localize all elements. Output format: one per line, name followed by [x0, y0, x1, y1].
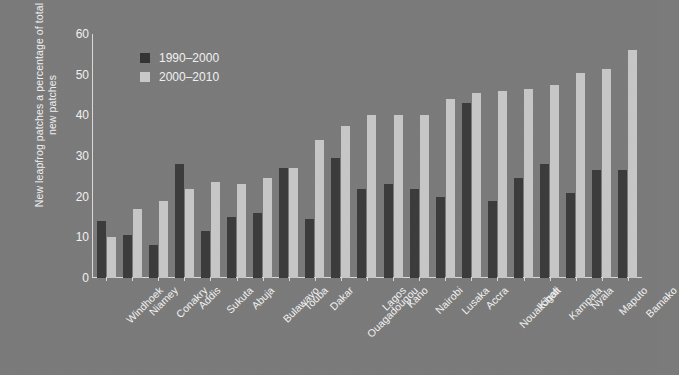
x-tickmark [445, 277, 446, 281]
bar-niamey-series1[interactable] [133, 209, 142, 278]
bar-kano-series0[interactable] [384, 184, 393, 278]
bar-kigali-series0[interactable] [514, 178, 523, 278]
legend-swatch-1 [140, 72, 150, 82]
x-tickmark [341, 277, 342, 281]
bar-bulawayo-series0[interactable] [253, 213, 262, 278]
bar-windhoek-series1[interactable] [107, 237, 116, 278]
y-tick-50: 50 [55, 69, 89, 81]
bar-group[interactable] [589, 34, 615, 278]
bar-addis-series1[interactable] [185, 189, 194, 278]
bar-group[interactable] [615, 34, 641, 278]
y-tick-20: 20 [55, 191, 89, 203]
bar-group[interactable] [93, 34, 119, 278]
bar-conakry-series0[interactable] [149, 245, 158, 278]
x-tick-label-abuja: Abuja [248, 284, 275, 311]
bar-group[interactable] [328, 34, 354, 278]
bar-nairobi-series1[interactable] [420, 115, 429, 278]
bar-group[interactable] [302, 34, 328, 278]
y-tick-40: 40 [55, 109, 89, 121]
bar-group[interactable] [223, 34, 249, 278]
bar-group[interactable] [354, 34, 380, 278]
bar-abuja-series0[interactable] [227, 217, 236, 278]
x-tickmark [263, 277, 264, 281]
bar-kampala-series1[interactable] [550, 85, 559, 278]
x-tickmark [184, 277, 185, 281]
bar-group[interactable] [563, 34, 589, 278]
x-tickmark [576, 277, 577, 281]
bar-kigali-series1[interactable] [524, 89, 533, 278]
legend-label-1: 2000–2010 [159, 71, 219, 83]
bar-bulawayo-series1[interactable] [263, 178, 272, 278]
x-tickmark [524, 277, 525, 281]
bar-nyala-series1[interactable] [576, 73, 585, 278]
bar-accra-series1[interactable] [472, 93, 481, 278]
bar-lusaka-series1[interactable] [446, 99, 455, 278]
bar-bamako-series0[interactable] [618, 170, 627, 278]
bar-ouagadougou-series1[interactable] [341, 126, 350, 279]
bar-nyala-series0[interactable] [566, 193, 575, 278]
legend-swatch-0 [140, 53, 150, 63]
bar-touba-series1[interactable] [289, 168, 298, 278]
x-tickmark [210, 277, 211, 281]
bar-group[interactable] [406, 34, 432, 278]
bar-dakar-series0[interactable] [305, 219, 314, 278]
bar-group[interactable] [458, 34, 484, 278]
bar-addis-series0[interactable] [175, 164, 184, 278]
x-tickmark [367, 277, 368, 281]
y-axis-tick-labels: 6050403020100 [53, 0, 89, 375]
bar-lusaka-series0[interactable] [436, 197, 445, 278]
y-tick-0: 0 [55, 272, 89, 284]
x-tickmark [315, 277, 316, 281]
legend-label-0: 1990–2000 [159, 52, 219, 64]
bar-group[interactable] [537, 34, 563, 278]
x-tickmark [237, 277, 238, 281]
x-tick-label-bamako: Bamako [643, 284, 679, 320]
bar-conakry-series1[interactable] [159, 201, 168, 278]
x-tickmark [158, 277, 159, 281]
x-tickmark [550, 277, 551, 281]
bar-group[interactable] [484, 34, 510, 278]
y-tick-10: 10 [55, 231, 89, 243]
bar-group[interactable] [380, 34, 406, 278]
bar-group[interactable] [276, 34, 302, 278]
bar-group[interactable] [511, 34, 537, 278]
x-tickmark [628, 277, 629, 281]
legend-item-0[interactable]: 1990–2000 [140, 52, 219, 64]
x-tickmark [497, 277, 498, 281]
bar-touba-series0[interactable] [279, 168, 288, 278]
bar-lagos-series0[interactable] [357, 189, 366, 278]
bar-maputo-series0[interactable] [592, 170, 601, 278]
bar-lagos-series1[interactable] [367, 115, 376, 278]
y-tick-60: 60 [55, 28, 89, 40]
bar-niamey-series0[interactable] [123, 235, 132, 278]
x-tick-label-nairobi: Nairobi [433, 284, 465, 316]
x-tickmark [419, 277, 420, 281]
bar-group[interactable] [250, 34, 276, 278]
bar-bamako-series1[interactable] [628, 50, 637, 278]
bar-dakar-series1[interactable] [315, 140, 324, 278]
bar-maputo-series1[interactable] [602, 69, 611, 278]
bar-accra-series0[interactable] [462, 103, 471, 278]
bar-ouagadougou-series0[interactable] [331, 158, 340, 278]
x-tickmark [602, 277, 603, 281]
x-tick-label-dakar: Dakar [327, 284, 355, 312]
bar-sukuta-series1[interactable] [211, 182, 220, 278]
x-tickmark [471, 277, 472, 281]
bar-abuja-series1[interactable] [237, 184, 246, 278]
bar-nouakchott-series0[interactable] [488, 201, 497, 278]
legend-item-1[interactable]: 2000–2010 [140, 71, 219, 83]
bar-group[interactable] [432, 34, 458, 278]
x-tick-label-touba: Touba [301, 284, 330, 313]
bar-nairobi-series0[interactable] [410, 189, 419, 278]
bar-sukuta-series0[interactable] [201, 231, 210, 278]
x-tickmark [106, 277, 107, 281]
bar-windhoek-series0[interactable] [97, 221, 106, 278]
x-tickmark [132, 277, 133, 281]
bar-kampala-series0[interactable] [540, 164, 549, 278]
y-tick-30: 30 [55, 150, 89, 162]
x-tickmark [289, 277, 290, 281]
bar-kano-series1[interactable] [394, 115, 403, 278]
bar-nouakchott-series1[interactable] [498, 91, 507, 278]
chart-legend: 1990–20002000–2010 [140, 52, 219, 90]
